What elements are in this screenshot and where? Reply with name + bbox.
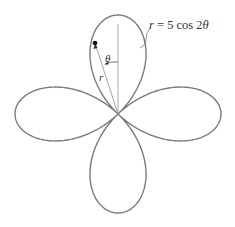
equation-label: r = 5 cos 2θ bbox=[149, 18, 209, 32]
r-label: r bbox=[99, 71, 104, 83]
curve-point bbox=[93, 41, 98, 46]
theta-label: θ bbox=[105, 52, 111, 64]
rose-diagram: r = 5 cos 2θ θ r bbox=[0, 0, 235, 227]
